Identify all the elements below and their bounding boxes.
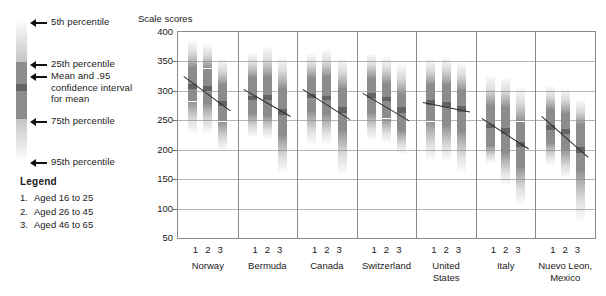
percentile-bar: [367, 32, 376, 238]
age-group-number: 3: [452, 244, 464, 255]
lower-tail-gradient: [516, 168, 525, 203]
y-axis-tick-label: 200: [139, 144, 173, 155]
country-label: Canada: [297, 260, 357, 272]
lower-tail-gradient: [576, 171, 585, 222]
upper-tail-gradient: [218, 59, 227, 84]
percentile-bar: [516, 32, 525, 238]
panel-divider: [297, 32, 298, 238]
lower-tail-gradient: [382, 119, 391, 143]
percentile-bar: [486, 32, 495, 238]
y-axis-tick-label: 100: [139, 203, 173, 214]
age-group-number: 3: [571, 244, 583, 255]
age-group-number: 2: [202, 244, 214, 255]
upper-tail-gradient: [561, 89, 570, 113]
upper-tail-gradient: [322, 50, 331, 76]
upper-tail-gradient: [442, 57, 451, 84]
upper-tail-gradient: [397, 64, 406, 94]
lower-tail-gradient: [457, 132, 466, 172]
lower-tail-gradient: [218, 122, 227, 151]
age-group-number: 3: [274, 244, 286, 255]
country-label-line: Italy: [476, 260, 536, 272]
upper-tail-gradient: [278, 57, 287, 88]
percentile-bar: [426, 32, 435, 238]
country-label-line: States: [416, 272, 476, 284]
y-axis-tick-label: 50: [139, 232, 173, 243]
age-group-numbers: 123: [416, 244, 476, 255]
upper-tail-gradient: [263, 47, 272, 75]
lower-tail-gradient: [561, 150, 570, 178]
panel-divider: [535, 32, 536, 238]
age-group-number: 2: [440, 244, 452, 255]
y-axis-title: Scale scores: [138, 13, 192, 24]
lower-tail-gradient: [397, 131, 406, 154]
percentile-bar: [442, 32, 451, 238]
country-label: Italy: [476, 260, 536, 272]
y-axis-tick-label: 300: [139, 85, 173, 96]
upper-tail-gradient: [426, 59, 435, 85]
upper-tail-gradient: [546, 86, 555, 109]
percentile-bar: [397, 32, 406, 238]
age-group-numbers: 123: [476, 244, 536, 255]
plot-area: [177, 31, 596, 239]
lower-tail-gradient: [248, 114, 257, 137]
chart-page: 5th percentile25th percentileMean and .9…: [0, 0, 606, 296]
age-group-numbers: 123: [178, 244, 238, 255]
percentile-bar: [218, 32, 227, 238]
country-label: Norway: [178, 260, 238, 272]
upper-tail-gradient: [501, 78, 510, 107]
mean-confidence-interval: [322, 96, 331, 101]
country-label-line: Bermuda: [238, 260, 298, 272]
country-label-line: Canada: [297, 260, 357, 272]
percentile-bar: [546, 32, 555, 238]
y-axis-tick-label: 250: [139, 114, 173, 125]
country-label-line: Mexico: [535, 272, 595, 284]
interquartile-band: [397, 94, 406, 131]
percentile-bar: [278, 32, 287, 238]
percentile-bar: [338, 32, 347, 238]
percentile-bar: [188, 32, 197, 238]
mean-confidence-interval: [263, 95, 272, 100]
age-group-number: 1: [547, 244, 559, 255]
upper-tail-gradient: [382, 57, 391, 83]
lower-tail-gradient: [322, 115, 331, 144]
percentile-bar: [307, 32, 316, 238]
age-group-number: 2: [261, 244, 273, 255]
upper-tail-gradient: [486, 76, 495, 105]
age-group-numbers: 123: [357, 244, 417, 255]
age-group-number: 2: [321, 244, 333, 255]
upper-tail-gradient: [203, 44, 212, 68]
country-label-line: United: [416, 260, 476, 272]
country-label: Switzerland: [357, 260, 417, 272]
country-label: Bermuda: [238, 260, 298, 272]
country-label: UnitedStates: [416, 260, 476, 283]
upper-tail-gradient: [188, 41, 197, 67]
age-group-number: 3: [214, 244, 226, 255]
percentile-bar: [203, 32, 212, 238]
upper-tail-gradient: [367, 54, 376, 78]
age-group-number: 1: [189, 244, 201, 255]
percentile-bar: [263, 32, 272, 238]
age-group-numbers: 123: [238, 244, 298, 255]
percentile-bar: [322, 32, 331, 238]
y-axis-tick-label: 350: [139, 55, 173, 66]
panel-divider: [476, 32, 477, 238]
lower-tail-gradient: [442, 126, 451, 161]
lower-tail-gradient: [486, 146, 495, 163]
lower-tail-gradient: [188, 102, 197, 134]
lower-tail-gradient: [546, 143, 555, 165]
y-axis-tick-label: 150: [139, 173, 173, 184]
lower-tail-gradient: [338, 131, 347, 173]
mean-confidence-interval: [397, 107, 406, 113]
country-label: Nuevo Leon,Mexico: [535, 260, 595, 283]
lower-tail-gradient: [263, 116, 272, 139]
age-group-number: 3: [333, 244, 345, 255]
age-group-number: 1: [428, 244, 440, 255]
age-group-numbers: 123: [297, 244, 357, 255]
upper-tail-gradient: [248, 53, 257, 77]
country-label-line: Nuevo Leon,: [535, 260, 595, 272]
age-group-number: 1: [487, 244, 499, 255]
age-group-number: 3: [393, 244, 405, 255]
percentile-bar: [576, 32, 585, 238]
upper-tail-gradient: [516, 88, 525, 122]
upper-tail-gradient: [576, 100, 585, 125]
